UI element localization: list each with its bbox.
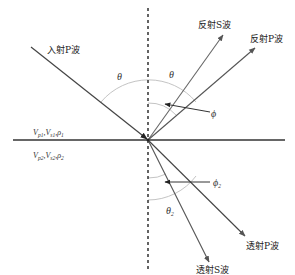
reflected-p-ray [148, 48, 255, 140]
transmitted-s-ray [148, 140, 209, 262]
upper-medium-properties: Vp1,Vs1,ρ1 [33, 128, 64, 138]
incidence-point [147, 139, 150, 142]
theta2-label: θ2 [166, 205, 174, 217]
seismic-wave-diagram: 入射P波 反射S波 反射P波 透射P波 透射S波 θ θ ϕ ϕ2 θ2 Vp1… [0, 0, 295, 275]
phi2-arc-lower [148, 174, 166, 178]
theta-right-label: θ [169, 69, 174, 80]
phi2-label: ϕ2 [213, 177, 221, 189]
incident-p-label: 入射P波 [47, 44, 80, 55]
theta-left-label: θ [117, 71, 122, 82]
reflected-s-ray [148, 35, 223, 140]
reflected-s-label: 反射S波 [198, 19, 231, 30]
transmitted-s-label: 透射S波 [196, 264, 229, 275]
reflected-p-label: 反射P波 [250, 33, 283, 44]
phi-label: ϕ [211, 108, 216, 119]
lower-medium-properties: Vp2,Vs2,ρ2 [33, 151, 64, 161]
transmitted-p-ray [148, 140, 245, 236]
incident-p-ray [31, 47, 147, 139]
transmitted-p-label: 透射P波 [246, 240, 279, 251]
